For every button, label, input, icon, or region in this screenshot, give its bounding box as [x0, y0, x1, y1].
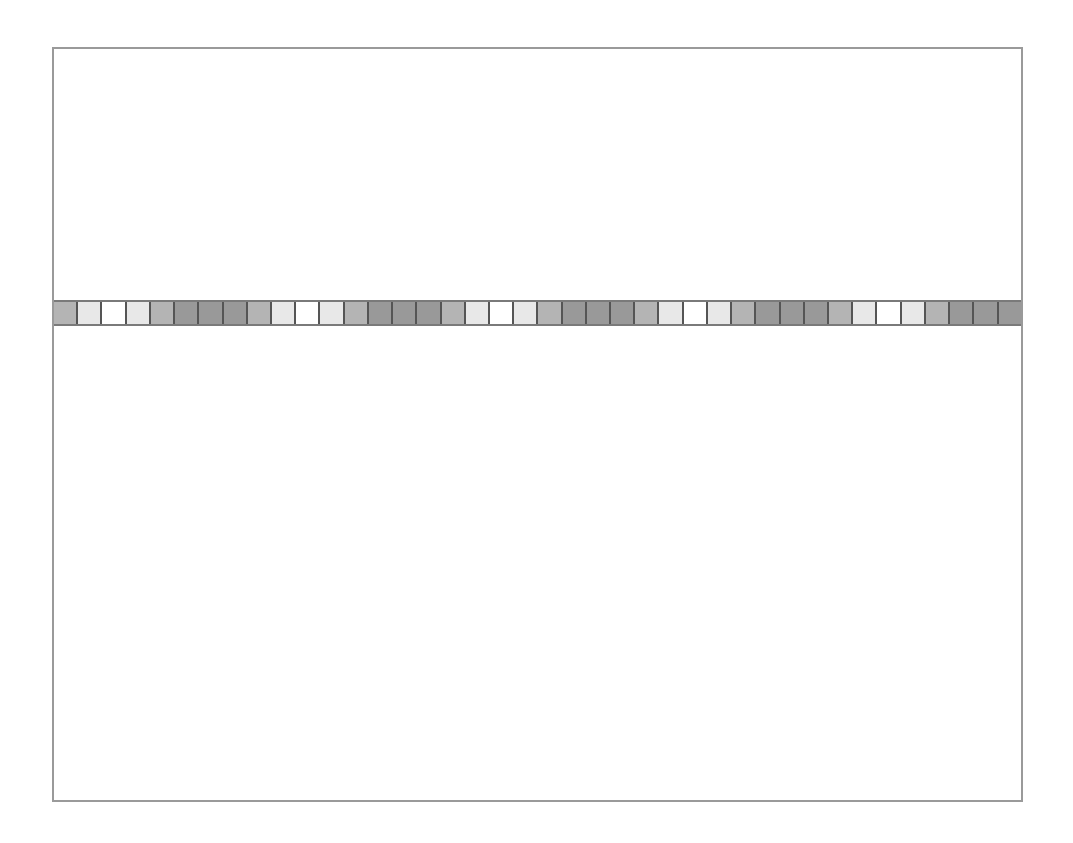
strip-cell-dark [974, 302, 998, 324]
strip-cell-mid [248, 302, 272, 324]
cell-strip [54, 300, 1021, 326]
strip-cell-mid [442, 302, 466, 324]
strip-cell-mid [538, 302, 562, 324]
strip-cell-dark [805, 302, 829, 324]
strip-cell-dark [950, 302, 974, 324]
strip-cell-light [902, 302, 926, 324]
strip-cell-dark [999, 302, 1021, 324]
strip-cell-white [102, 302, 126, 324]
strip-cell-dark [781, 302, 805, 324]
strip-cell-light [272, 302, 296, 324]
strip-cell-dark [756, 302, 780, 324]
strip-cell-dark [611, 302, 635, 324]
strip-cell-dark [175, 302, 199, 324]
strip-cell-dark [369, 302, 393, 324]
strip-cell-white [490, 302, 514, 324]
strip-cell-white [877, 302, 901, 324]
strip-cell-dark [199, 302, 223, 324]
strip-cell-mid [732, 302, 756, 324]
strip-cell-light [708, 302, 732, 324]
strip-cell-dark [563, 302, 587, 324]
strip-cell-white [684, 302, 708, 324]
strip-cell-white [296, 302, 320, 324]
strip-cell-light [78, 302, 102, 324]
strip-cell-mid [635, 302, 659, 324]
strip-cell-dark [587, 302, 611, 324]
strip-cell-dark [224, 302, 248, 324]
strip-cell-light [853, 302, 877, 324]
strip-cell-light [659, 302, 683, 324]
strip-cell-dark [393, 302, 417, 324]
strip-cell-light [127, 302, 151, 324]
strip-cell-mid [829, 302, 853, 324]
strip-cell-mid [54, 302, 78, 324]
strip-cell-mid [345, 302, 369, 324]
strip-cell-mid [926, 302, 950, 324]
strip-cell-light [320, 302, 344, 324]
diagram-frame [52, 47, 1023, 802]
strip-cell-mid [151, 302, 175, 324]
strip-cell-light [514, 302, 538, 324]
strip-cell-dark [417, 302, 441, 324]
strip-cell-light [466, 302, 490, 324]
